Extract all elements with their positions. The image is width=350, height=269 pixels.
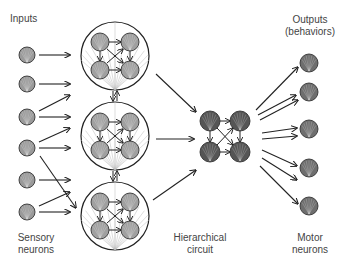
arrow [156,74,196,112]
module-neuron [121,113,139,131]
arrow [39,95,70,111]
arrow [262,128,297,133]
motor-neurons [300,54,318,215]
module-neuron [121,221,139,239]
arrow [153,170,196,200]
module-neuron [91,113,109,131]
hierarchical-label-line2: circuit [165,244,235,256]
module-neuron [121,141,139,159]
arrow [260,166,298,204]
sensory-label-line1: Sensory [8,232,64,244]
sensory-label-line2: neurons [8,244,64,256]
arrow [262,158,297,180]
module-neuron [121,193,139,211]
neural-hierarchy-diagram: Inputs Outputs (behaviors) Sensory neuro… [0,0,350,269]
circuit-module [81,102,149,170]
arrow [258,95,296,115]
hierarchical-node [230,142,250,162]
motor-neuron [300,54,318,72]
arrow [39,128,70,142]
sensory-neuron [19,76,35,92]
module-neuron [91,61,109,79]
outputs-label: Outputs (behaviors) [280,14,340,38]
motor-neuron [300,197,318,215]
arrow [40,156,76,208]
sensory-neurons [19,47,35,220]
module-neuron [91,33,109,51]
outputs-label-line2: (behaviors) [280,26,340,38]
outputs-label-line1: Outputs [280,14,340,26]
sensory-neuron [19,47,35,63]
circuit-module [81,182,149,250]
motor-neuron [300,120,318,138]
module-neuron [121,61,139,79]
motor-neuron [300,83,318,101]
hierarchical-node [230,111,250,131]
sensory-neuron [19,204,35,220]
circuit-module [81,22,149,90]
sensory-neuron [19,109,35,125]
motor-label-line1: Motor [282,232,338,244]
sensory-neuron [19,140,35,156]
hierarchical-circuit-label: Hierarchical circuit [165,232,235,256]
motor-neurons-label: Motor neurons [282,232,338,256]
hierarchical-node [200,142,220,162]
arrow [262,136,297,139]
sensory-neuron [19,172,35,188]
arrow [260,100,298,120]
circuit-modules [81,22,149,250]
hierarchical-circuit [200,111,250,162]
module-neuron [91,221,109,239]
module-neuron [91,193,109,211]
module-neuron [121,33,139,51]
arrow [39,192,70,206]
motor-neuron [300,159,318,177]
motor-label-line2: neurons [282,244,338,256]
module-neuron [91,141,109,159]
arrow [262,150,297,166]
hierarchical-label-line1: Hierarchical [165,232,235,244]
sensory-neurons-label: Sensory neurons [8,232,64,256]
connection-arrows [39,55,298,212]
inputs-label: Inputs [10,13,37,25]
hierarchical-node [200,111,220,131]
diagram-graphic [0,0,350,269]
